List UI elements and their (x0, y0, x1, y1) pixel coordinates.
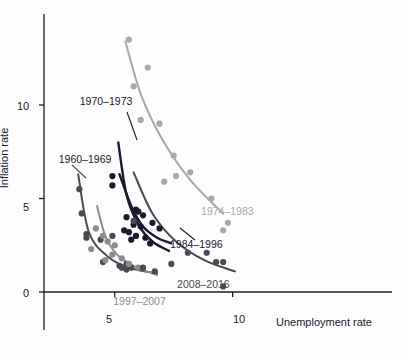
data-point (109, 173, 115, 179)
data-point (213, 259, 219, 265)
data-point (79, 210, 85, 216)
x-tick-label-10: 10 (233, 313, 245, 325)
data-point (145, 65, 151, 71)
chart-plot-area (0, 0, 401, 359)
data-point (142, 235, 148, 241)
data-point (138, 117, 144, 123)
data-point (161, 179, 167, 185)
data-point (121, 227, 127, 233)
data-point (109, 233, 115, 239)
annotation-leader-line (127, 112, 137, 140)
data-point (109, 182, 115, 188)
data-point (171, 152, 177, 158)
data-point (173, 173, 179, 179)
data-point (131, 218, 137, 224)
data-point (102, 257, 108, 263)
x-axis-title: Unemployment rate (276, 316, 372, 328)
series-label-1997-2007: 1997–2007 (113, 295, 166, 307)
data-point (123, 214, 129, 220)
data-point (131, 83, 137, 89)
y-tick-label-10: 10 (17, 100, 29, 112)
data-point (152, 268, 158, 274)
series-label-1960-1969: 1960–1969 (59, 153, 112, 165)
y-axis-title: Inflation rate (0, 128, 10, 189)
data-point (220, 259, 226, 265)
data-point (147, 240, 153, 246)
series-label-1984-1996: 1984–1996 (170, 238, 223, 250)
data-point (83, 231, 89, 237)
series-curve (134, 172, 235, 271)
series-label-2008-2016: 2008–2016 (177, 278, 230, 290)
data-point (126, 36, 132, 42)
data-point (204, 250, 210, 256)
data-point (156, 225, 162, 231)
data-point (119, 265, 125, 271)
series-label-1974-1983: 1974–1983 (201, 205, 254, 217)
data-point (149, 220, 155, 226)
data-point (105, 238, 111, 244)
data-point (128, 237, 134, 243)
data-point (168, 261, 174, 267)
data-point (93, 225, 99, 231)
data-point (88, 246, 94, 252)
data-point (225, 220, 231, 226)
data-point (140, 212, 146, 218)
data-point (185, 250, 191, 256)
y-tick-label-5: 5 (23, 201, 29, 213)
data-point (156, 121, 162, 127)
data-point (208, 195, 214, 201)
series-curve (78, 174, 157, 273)
data-point (126, 261, 132, 267)
y-tick-label-0: 0 (23, 287, 29, 299)
data-point (76, 186, 82, 192)
data-point (100, 233, 106, 239)
data-point (109, 252, 115, 258)
data-point (187, 169, 193, 175)
series-label-1970-1973: 1970–1973 (80, 95, 133, 107)
data-point (220, 227, 226, 233)
data-point (112, 242, 118, 248)
data-point (138, 223, 144, 229)
phillips-curve-chart: Inflation rate Unemployment rate 0 5 10 … (0, 0, 401, 359)
data-point (140, 265, 146, 271)
data-point (119, 255, 125, 261)
x-tick-label-5: 5 (106, 313, 112, 325)
